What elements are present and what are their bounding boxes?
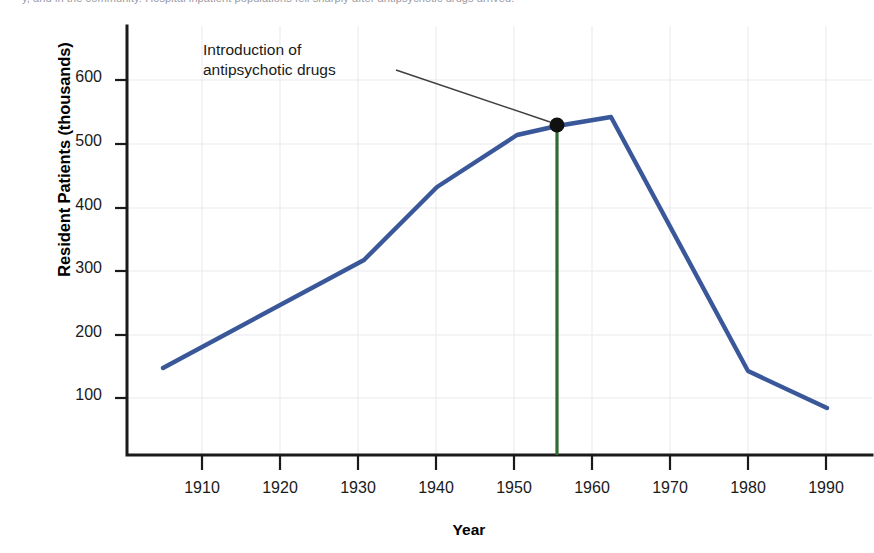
y-tick-label-100: 100 (44, 386, 102, 404)
x-tick-label-1940: 1940 (401, 479, 471, 497)
x-tick-label-1930: 1930 (323, 479, 393, 497)
x-tick-label-1960: 1960 (557, 479, 627, 497)
y-gridlines (128, 80, 872, 398)
annotation-line-1: Introduction of (203, 40, 336, 60)
resident-patients-line (163, 117, 827, 408)
x-tick-label-1980: 1980 (713, 479, 783, 497)
annotation-text: Introduction of antipsychotic drugs (203, 40, 336, 80)
chart-figure: y, and in the community. Hospital inpati… (0, 0, 874, 553)
x-gridlines (202, 26, 826, 455)
x-axis-title: Year (0, 521, 874, 539)
x-tick-label-1950: 1950 (479, 479, 549, 497)
y-tick-label-200: 200 (44, 323, 102, 341)
axis-lines (127, 26, 872, 455)
annotation-line-2: antipsychotic drugs (203, 60, 336, 80)
annotation-leader-line (396, 70, 550, 122)
annotation-marker-dot (550, 118, 565, 133)
x-tick-label-1910: 1910 (167, 479, 237, 497)
line-chart-svg (0, 0, 874, 553)
x-tick-label-1990: 1990 (791, 479, 861, 497)
x-tick-label-1920: 1920 (245, 479, 315, 497)
x-tick-marks (202, 455, 826, 470)
x-axis-title-text: Year (453, 521, 486, 538)
x-tick-label-1970: 1970 (635, 479, 705, 497)
y-tick-marks (115, 80, 127, 398)
y-axis-title: Resident Patients (thousands) (55, 10, 74, 310)
